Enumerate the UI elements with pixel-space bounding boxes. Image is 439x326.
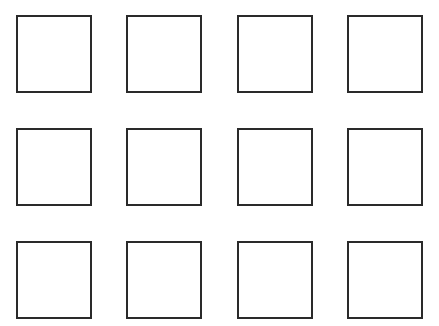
grid-square-r1-c3 xyxy=(237,15,313,93)
grid-square-r3-c4 xyxy=(347,241,423,319)
grid-square-r1-c2 xyxy=(126,15,202,93)
grid-square-r1-c4 xyxy=(347,15,423,93)
grid-square-r2-c4 xyxy=(347,128,423,206)
grid-square-r3-c1 xyxy=(16,241,92,319)
square-grid xyxy=(0,0,439,326)
grid-square-r2-c2 xyxy=(126,128,202,206)
grid-square-r3-c2 xyxy=(126,241,202,319)
grid-square-r3-c3 xyxy=(237,241,313,319)
grid-square-r2-c1 xyxy=(16,128,92,206)
grid-square-r2-c3 xyxy=(237,128,313,206)
grid-square-r1-c1 xyxy=(16,15,92,93)
